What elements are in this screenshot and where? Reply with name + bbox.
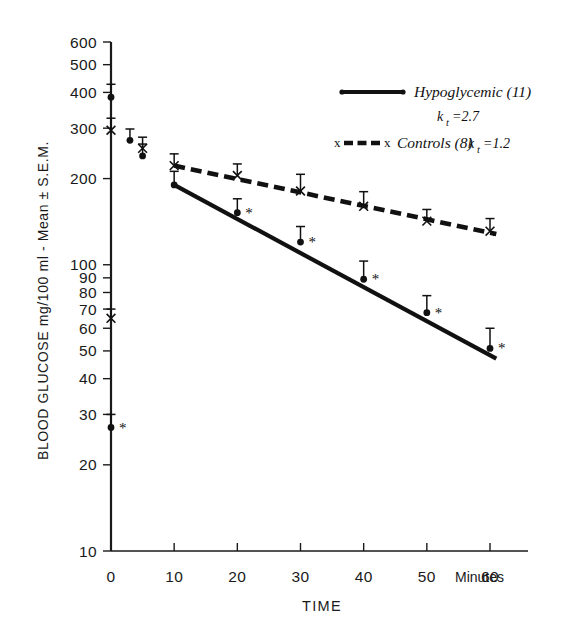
- y-axis-title: BLOOD GLUCOSE mg/100 ml - Mean ± S.E.M.: [35, 141, 51, 460]
- fit-line-group: [174, 166, 496, 359]
- y-tick-label-70: 70: [79, 301, 97, 318]
- x-tick-label-20: 20: [228, 568, 246, 585]
- significance-star-0-5: *: [245, 205, 253, 221]
- marker-dot-0-2: [127, 137, 134, 144]
- y-tick-group: 600500400300200100908070605040302010: [70, 34, 111, 560]
- marker-dot-0-0: [108, 94, 115, 101]
- marker-dot-0-1: [108, 424, 115, 431]
- marker-dot-0-7: [360, 276, 367, 283]
- y-tick-label-60: 60: [79, 320, 97, 337]
- datapoint-1-7: [422, 209, 431, 225]
- legend-kt-value-2: =1.2: [483, 136, 510, 151]
- datapoint-0-8: *: [422, 296, 442, 321]
- legend-kt-controls: k t =1.2: [468, 136, 510, 155]
- legend-dot-left-icon: [339, 89, 344, 94]
- x-tick-label-40: 40: [355, 568, 373, 585]
- significance-star-0-6: *: [309, 234, 317, 250]
- legend-label-controls: Controls (8): [397, 134, 473, 152]
- legend-x-marker-right-icon: x: [384, 135, 391, 150]
- legend-kt-subscript-2: t: [477, 144, 481, 155]
- y-tick-label-10: 10: [79, 543, 97, 560]
- y-tick-label-300: 300: [70, 120, 97, 137]
- x-tick-label-50: 50: [418, 568, 436, 585]
- legend-entry-hypoglycemic: Hypoglycemic (11) k t =2.7: [339, 83, 531, 128]
- marker-dot-0-9: [487, 345, 494, 352]
- fit-line-0: [174, 185, 496, 359]
- marker-dot-0-4: [171, 182, 178, 189]
- legend-kt-prefix-1: k: [437, 109, 444, 124]
- legend-x-marker-left-icon: x: [334, 135, 341, 150]
- legend-kt-prefix-2: k: [468, 136, 475, 151]
- x-tick-label-30: 30: [291, 568, 309, 585]
- x-axis-unit-label: Minutes: [455, 569, 504, 585]
- fit-line-1: [174, 166, 496, 234]
- datapoint-0-2: [125, 129, 134, 144]
- legend-kt-value-1: =2.7: [452, 109, 480, 124]
- x-tick-group: 0102030405060: [106, 543, 499, 585]
- x-tick-label-10: 10: [165, 568, 183, 585]
- y-tick-label-50: 50: [79, 342, 97, 359]
- significance-star-0-7: *: [372, 271, 380, 287]
- y-tick-label-400: 400: [70, 84, 97, 101]
- legend-kt-subscript-1: t: [446, 117, 450, 128]
- datapoint-0-1: *: [107, 414, 127, 435]
- marker-dot-0-6: [297, 239, 304, 246]
- y-tick-label-30: 30: [79, 406, 97, 423]
- legend: Hypoglycemic (11) k t =2.7 x x Controls …: [334, 83, 531, 155]
- legend-entry-controls: x x Controls (8) k t =1.2: [334, 134, 510, 155]
- y-tick-label-40: 40: [79, 370, 97, 387]
- y-tick-label-500: 500: [70, 56, 97, 73]
- figure-container: 600500400300200100908070605040302010 010…: [0, 0, 562, 632]
- legend-label-hypoglycemic: Hypoglycemic (11): [413, 83, 531, 101]
- significance-star-0-9: *: [498, 340, 506, 356]
- blood-glucose-log-chart: 600500400300200100908070605040302010 010…: [0, 0, 562, 632]
- datapoint-0-6: *: [296, 227, 316, 251]
- significance-star-0-1: *: [119, 420, 127, 436]
- marker-dot-0-8: [423, 309, 430, 316]
- significance-star-0-8: *: [435, 305, 443, 321]
- marker-dot-0-5: [234, 209, 241, 216]
- y-tick-label-20: 20: [79, 456, 97, 473]
- x-axis-title: TIME: [302, 598, 342, 614]
- marker-dot-0-3: [139, 153, 146, 160]
- y-tick-label-80: 80: [79, 284, 97, 301]
- legend-kt-hypoglycemic: k t =2.7: [437, 109, 480, 128]
- y-tick-label-200: 200: [70, 170, 97, 187]
- datapoint-0-7: *: [359, 261, 379, 287]
- legend-dot-right-icon: [400, 89, 405, 94]
- datapoint-0-4: [170, 171, 179, 188]
- x-tick-label-0: 0: [106, 568, 115, 585]
- y-tick-label-600: 600: [70, 34, 97, 51]
